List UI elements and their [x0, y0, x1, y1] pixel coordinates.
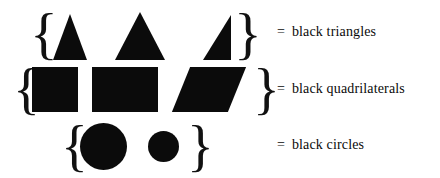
legend-triangles: = black triangles	[277, 25, 376, 39]
right-brace-quadrilaterals: }	[253, 67, 267, 113]
shape-classification-figure: { } = black triangles { } = black quadri…	[0, 0, 440, 178]
quadrilaterals-group: { }	[13, 62, 251, 116]
legend-label-triangles: black triangles	[292, 25, 376, 39]
figure-row-triangles: { } = black triangles	[0, 4, 440, 62]
left-brace-triangles: {	[30, 10, 44, 58]
circle-large-icon	[80, 123, 127, 170]
circle-small-icon	[148, 131, 179, 162]
equals-icon-circles: =	[277, 138, 285, 152]
figure-row-quadrilaterals: { } = black quadrilaterals	[0, 62, 440, 116]
parallelogram-icon	[172, 67, 246, 112]
isosceles-triangle-wide-icon	[115, 12, 165, 60]
legend-label-quadrilaterals: black quadrilaterals	[292, 82, 405, 96]
left-brace-quadrilaterals: {	[13, 67, 27, 113]
legend-circles: = black circles	[277, 138, 364, 152]
equals-icon-triangles: =	[277, 25, 285, 39]
triangles-group: { }	[30, 4, 235, 62]
circles-group: { }	[61, 116, 191, 176]
right-triangle-icon	[203, 15, 231, 60]
square-icon	[32, 67, 78, 112]
isosceles-triangle-narrow-icon	[53, 14, 87, 60]
legend-label-circles: black circles	[292, 138, 364, 152]
legend-quadrilaterals: = black quadrilaterals	[277, 82, 405, 96]
left-brace-circles: {	[61, 124, 75, 170]
equals-icon-quadrilaterals: =	[277, 82, 285, 96]
rectangle-icon	[92, 67, 158, 112]
right-brace-circles: }	[187, 124, 201, 170]
figure-row-circles: { } = black circles	[0, 116, 440, 176]
right-brace-triangles: }	[234, 10, 248, 58]
